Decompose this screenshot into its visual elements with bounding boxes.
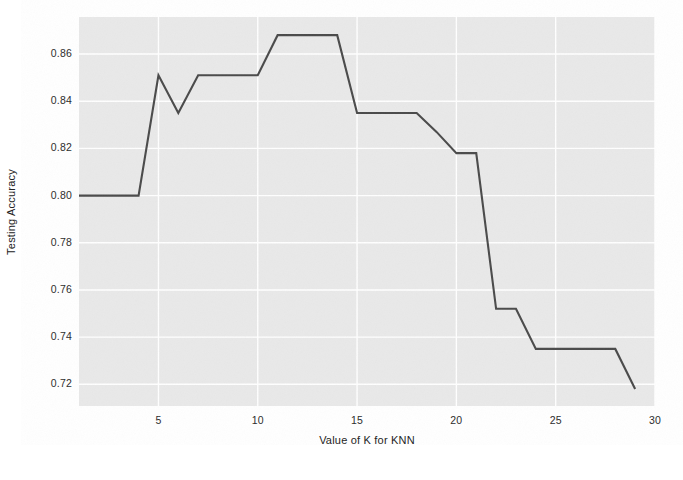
- plot-area: [79, 17, 655, 406]
- x-axis-tick-label: 10: [238, 414, 278, 426]
- y-axis-tick-label: 0.74: [30, 331, 72, 342]
- x-axis-tick-label: 30: [635, 414, 675, 426]
- data-series-line: [79, 17, 655, 406]
- y-axis-tick-label: 0.72: [30, 378, 72, 389]
- x-axis-tick-label: 15: [337, 414, 377, 426]
- x-axis-tick-label: 5: [138, 414, 178, 426]
- y-axis-tick-labels: 0.720.740.760.780.800.820.840.86: [10, 0, 72, 480]
- figure: Testing Accuracy 0.720.740.760.780.800.8…: [0, 0, 683, 480]
- series-polyline: [79, 35, 635, 389]
- x-axis-title: Value of K for KNN: [79, 434, 655, 446]
- y-axis-tick-label: 0.82: [30, 142, 72, 153]
- y-axis-tick-label: 0.76: [30, 284, 72, 295]
- x-axis-tick-label: 25: [536, 414, 576, 426]
- x-axis-tick-label: 20: [436, 414, 476, 426]
- y-axis-tick-label: 0.84: [30, 95, 72, 106]
- y-axis-tick-label: 0.78: [30, 237, 72, 248]
- y-axis-tick-label: 0.86: [30, 48, 72, 59]
- x-axis-tick-labels: 51015202530: [0, 414, 683, 430]
- y-axis-tick-label: 0.80: [30, 190, 72, 201]
